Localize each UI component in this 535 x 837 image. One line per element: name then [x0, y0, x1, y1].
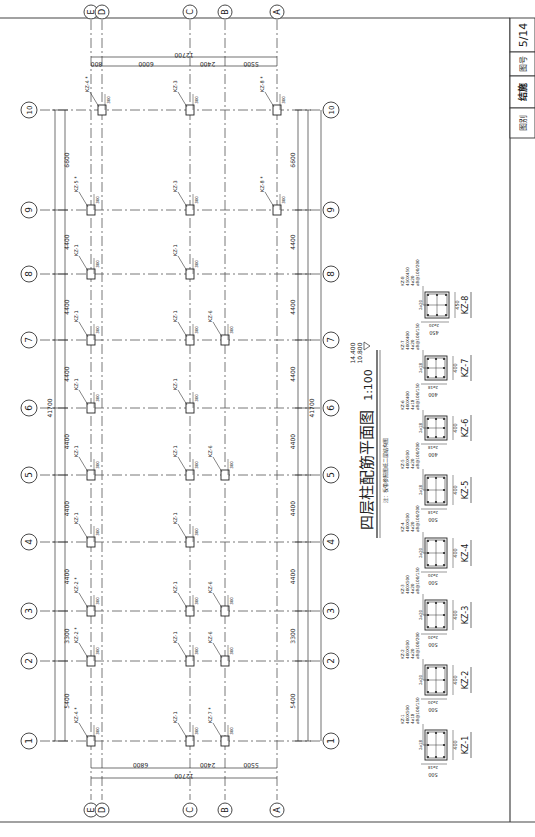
tag-leader: [79, 322, 88, 337]
axis-label-7: 7: [24, 337, 34, 343]
rebar-dot: [427, 744, 429, 746]
axis-label-8: 8: [24, 271, 34, 277]
offset-dim: 300: [95, 528, 100, 536]
section-side-bars: 2⌀20: [418, 610, 423, 620]
rebar-dot: [427, 367, 429, 369]
dim-lettered-total-top: 12700: [174, 52, 193, 59]
rebar-dot: [427, 614, 429, 616]
offset-dim: 300: [229, 461, 234, 469]
rebar-dot: [427, 436, 429, 438]
rebar-dot: [443, 667, 445, 669]
dim-numbered-total: 41700: [308, 398, 315, 417]
rebar-dot: [443, 418, 445, 420]
axis-label-A: A: [273, 9, 282, 15]
dim-numbered-8: 6600: [63, 152, 70, 167]
rebar-dot: [427, 294, 429, 296]
dim-lettered-top-2: 2400: [200, 61, 215, 68]
axis-label-A: A: [273, 807, 282, 813]
axis-bubble-D-top: D: [95, 5, 109, 19]
section-dim-inner: 2⌀20: [429, 323, 439, 328]
axis-label-D: D: [98, 807, 107, 813]
tag-leader: [79, 524, 88, 539]
offset-dim: 300: [194, 647, 199, 655]
column-10-D[interactable]: KZ-4 *300: [84, 76, 111, 115]
section-dim-inner: 2⌀20: [428, 635, 438, 640]
section-spec-3: ⌀8@100/200: [415, 259, 420, 286]
section-dim-h: 400: [452, 485, 458, 495]
rebar-dot: [435, 358, 437, 360]
rebar-dot: [443, 744, 445, 746]
section-dim-inner: 2⌀18: [428, 385, 438, 390]
section-dim-h: 400: [452, 740, 458, 750]
rebar-dot: [445, 294, 447, 296]
rebar-dot: [427, 418, 429, 420]
dim-lettered-bottom-2: 5500: [243, 762, 258, 769]
column-1-E[interactable]: KZ-4 *300: [73, 707, 100, 746]
axis-label-2: 2: [24, 658, 34, 664]
dim-numbered-1: 3300: [63, 628, 70, 643]
column-tag-label: KZ-8 *: [259, 76, 265, 92]
column-9-A[interactable]: KZ-8 *300: [259, 176, 286, 215]
column-9-E[interactable]: KZ-5 *300: [73, 176, 100, 215]
rebar-dot: [435, 477, 437, 479]
column-tag-label: KZ-1: [172, 581, 178, 593]
rebar-dot: [435, 691, 437, 693]
rebar-dot: [443, 367, 445, 369]
axis-bubble-6-right: 6: [323, 400, 339, 416]
drawing-title: 四层柱配筋平面图: [358, 410, 376, 530]
elevation-top: 14.400: [349, 342, 356, 363]
tag-leader: [213, 457, 222, 472]
rebar-dot: [443, 376, 445, 378]
offset-dim: 300: [95, 727, 100, 735]
column-tag-label: KZ-6: [207, 581, 213, 593]
section-side-bars: 2⌀18: [418, 740, 423, 750]
section-spec-3: ⌀8@100/150: [415, 697, 420, 724]
rebar-dot: [443, 756, 445, 758]
rebar-dot: [427, 732, 429, 734]
section-detail-KZ-3: KZ-3400X5004⌀20⌀8@100/1502⌀204002⌀20500K…: [400, 567, 471, 648]
axis-label-5: 5: [326, 472, 336, 478]
offset-dim: 300: [194, 96, 199, 104]
column-tag-label: KZ-1: [73, 310, 79, 322]
rebar-dot: [436, 314, 438, 316]
column-3-E[interactable]: KZ-2 *300: [73, 577, 100, 616]
axis-label-D: D: [98, 9, 107, 15]
offset-dim: 300: [229, 647, 234, 655]
offset-dim: 300: [194, 597, 199, 605]
column-1-B[interactable]: KZ-7 *300: [207, 707, 234, 746]
rebar-dot: [435, 756, 437, 758]
section-name-label: KZ-3: [461, 606, 470, 625]
rebar-dot: [435, 667, 437, 669]
offset-dim: 300: [95, 260, 100, 268]
rebar-dot: [427, 540, 429, 542]
drawing-title-group: 四层柱配筋平面图 1:100 注：板带参照图纸二层结构图 14.400 10.8…: [349, 342, 389, 538]
rebar-dot: [443, 552, 445, 554]
column-10-A[interactable]: KZ-8 *300: [259, 76, 286, 115]
column-2-E[interactable]: KZ-2 *300: [73, 627, 100, 666]
section-dim-b: 400: [428, 452, 438, 458]
offset-dim: 300: [106, 96, 111, 104]
axis-bubble-7-right: 7: [323, 332, 339, 348]
rebar-dot: [435, 602, 437, 604]
rebar-dot: [443, 679, 445, 681]
column-tag-label: KZ-6: [207, 310, 213, 322]
offset-dim: 300: [229, 597, 234, 605]
dim-numbered-7: 4400: [289, 234, 296, 249]
column-tag-label: KZ-1: [73, 378, 79, 390]
rebar-dot: [443, 436, 445, 438]
sheet-no-label-text: 图号: [519, 56, 528, 72]
rebar-dot: [445, 314, 447, 316]
tag-leader: [79, 192, 88, 207]
axis-bubble-5-right: 5: [323, 467, 339, 483]
rebar-dot: [427, 602, 429, 604]
offset-dim: 300: [194, 461, 199, 469]
rebar-dot: [435, 540, 437, 542]
section-dim-h: 400: [452, 423, 458, 433]
rebar-dot: [443, 614, 445, 616]
section-dim-b: 500: [428, 580, 438, 586]
axis-bubble-B-bottom: B: [218, 803, 232, 817]
column-tag-label: KZ-1: [172, 512, 178, 524]
section-name-label: KZ-1: [461, 736, 470, 755]
tag-leader: [213, 322, 222, 337]
section-side-bars: 2⌀20: [418, 300, 423, 310]
